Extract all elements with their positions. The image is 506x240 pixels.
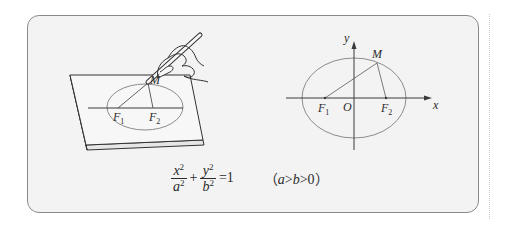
plus-sign: + — [190, 170, 198, 186]
x-axis-arrow-icon — [424, 96, 432, 101]
segment-f2-m — [377, 63, 386, 98]
fraction-x-over-a: x2 a2 — [171, 163, 187, 194]
label-f2: F2 — [380, 101, 392, 117]
label-origin: O — [343, 100, 352, 114]
label-x-axis: x — [432, 98, 439, 112]
label-f1: F1 — [317, 101, 329, 117]
label-m: M — [371, 47, 383, 61]
focus-1-point — [324, 97, 326, 99]
equals-one: =1 — [219, 170, 234, 186]
fraction-y-over-b: y2 b2 — [200, 163, 216, 194]
ellipse-equation: x2 a2 + y2 b2 =1 （a>b>0） — [170, 158, 329, 198]
focus-2-point — [385, 97, 387, 99]
segment-f1-m — [325, 63, 377, 98]
condition: （a>b>0） — [264, 168, 329, 188]
y-axis-arrow-icon — [352, 41, 357, 49]
label-y-axis: y — [343, 31, 350, 45]
